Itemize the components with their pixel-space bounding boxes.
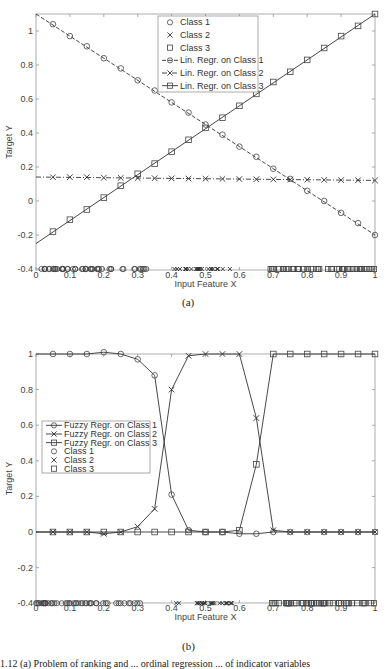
- chart-b: -0.4-0.200.20.40.60.8100.10.20.30.40.50.…: [4, 349, 378, 622]
- legend-entry: Lin. Regr. on Class 2: [180, 68, 264, 78]
- y-tick-label: 0.4: [20, 456, 33, 466]
- y-tick-label: 1: [28, 349, 33, 359]
- y-tick-label: 0.4: [20, 128, 33, 138]
- series-lin-regr-on-class-2: [36, 174, 378, 183]
- panel-label-a: (a): [182, 296, 194, 308]
- y-tick-label: 0.2: [20, 162, 33, 172]
- y-tick-label: 0: [28, 196, 33, 206]
- samples-class-3: [268, 266, 377, 271]
- circle-marker-icon: [67, 33, 73, 39]
- plot-area: [36, 354, 375, 603]
- legend-a: Class 1Class 2Class 3Lin. Regr. on Class…: [158, 16, 264, 92]
- legend-entry: Lin. Regr. on Class 3: [180, 81, 264, 91]
- square-marker-icon: [290, 266, 295, 271]
- y-axis-label: Target Y: [4, 462, 14, 495]
- legend-entry: Class 2: [180, 30, 210, 40]
- y-tick-label: -0.2: [17, 563, 33, 573]
- circle-marker-icon: [169, 100, 175, 106]
- figure-canvas: -0.4-0.200.20.40.60.8100.10.20.30.40.50.…: [0, 0, 387, 669]
- x-tick-label: 0: [33, 270, 38, 280]
- circle-marker-icon: [355, 220, 361, 226]
- samples-class-1: [39, 266, 149, 271]
- circle-marker-icon: [186, 110, 192, 116]
- legend-entry: Class 3: [64, 464, 94, 474]
- circle-marker-icon: [338, 210, 344, 216]
- square-marker-icon: [329, 266, 334, 271]
- square-marker-icon: [315, 266, 320, 271]
- circle-marker-icon: [321, 198, 327, 204]
- square-marker-icon: [329, 266, 334, 271]
- x-marker-icon: [135, 524, 141, 530]
- y-tick-label: -0.4: [17, 598, 33, 608]
- y-tick-label: 0.8: [20, 385, 33, 395]
- y-tick-label: -0.2: [17, 230, 33, 240]
- y-tick-label: 0.8: [20, 60, 33, 70]
- circle-marker-icon: [220, 132, 226, 138]
- y-tick-label: 0.6: [20, 94, 33, 104]
- circle-marker-icon: [84, 44, 90, 50]
- panel-label-b: (b): [182, 640, 195, 652]
- x-axis-label: Input Feature X: [174, 612, 236, 622]
- x-marker-icon: [101, 175, 107, 181]
- square-marker-icon: [326, 266, 331, 271]
- x-marker-icon: [271, 177, 277, 183]
- circle-marker-icon: [203, 122, 209, 128]
- chart-a: -0.4-0.200.20.40.60.8100.10.20.30.40.50.…: [4, 11, 378, 289]
- y-tick-label: 0.6: [20, 420, 33, 430]
- legend-b: Fuzzy Regr. on Class 1Fuzzy Regr. on Cla…: [42, 420, 157, 473]
- y-tick-label: 0: [28, 527, 33, 537]
- y-tick-label: -0.4: [17, 264, 33, 274]
- y-axis-label: Target Y: [4, 125, 14, 158]
- circle-marker-icon: [304, 188, 310, 194]
- y-tick-label: 1: [28, 26, 33, 36]
- legend-entry: Class 3: [180, 43, 210, 53]
- samples-class-1: [34, 601, 143, 606]
- legend-entry: Lin. Regr. on Class 1: [180, 55, 264, 65]
- x-axis-label: Input Feature X: [174, 279, 236, 289]
- y-tick-label: 0.2: [20, 491, 33, 501]
- figure-caption: 1.12 (a) Problem of ranking and ... ordi…: [0, 658, 387, 669]
- legend-entry: Class 1: [180, 17, 210, 27]
